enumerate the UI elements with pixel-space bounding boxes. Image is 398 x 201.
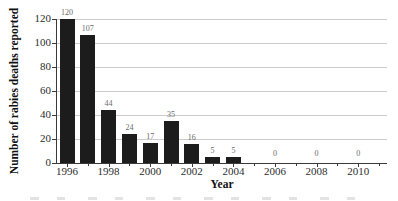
x-tick-mark [275, 164, 276, 167]
y-tick-label: 120 [18, 12, 51, 25]
bar [226, 157, 241, 163]
x-tick-mark [358, 164, 359, 167]
gridline [57, 67, 387, 68]
gridline [57, 91, 387, 92]
y-tick-mark [52, 139, 56, 140]
gridline [57, 19, 387, 20]
bar [205, 157, 220, 163]
y-tick-mark [52, 19, 56, 20]
y-tick-mark [52, 163, 56, 164]
bar-value-label: 0 [302, 149, 332, 158]
x-minor-tick-mark [171, 164, 172, 166]
x-tick-mark [192, 164, 193, 167]
y-tick-mark [52, 91, 56, 92]
y-tick-mark [52, 67, 56, 68]
bar-value-label: 44 [94, 99, 124, 108]
x-tick-mark [150, 164, 151, 167]
rabies-deaths-bar-chart: Number of rabies deaths reported 1201074… [0, 0, 398, 201]
bar-value-label: 107 [73, 24, 103, 33]
x-minor-tick-mark [129, 164, 130, 166]
bar-value-label: 0 [260, 149, 290, 158]
gridline [57, 43, 387, 44]
x-minor-tick-mark [337, 164, 338, 166]
bar [164, 121, 179, 163]
bar [101, 110, 116, 163]
cropped-caption-remnant [30, 197, 376, 200]
bar-value-label: 17 [135, 132, 165, 141]
bar-value-label: 0 [343, 149, 373, 158]
x-minor-tick-mark [296, 164, 297, 166]
x-minor-tick-mark [254, 164, 255, 166]
plot-area: 120107442417351655000 [56, 19, 387, 164]
y-tick-label: 60 [18, 84, 51, 97]
bar [60, 19, 75, 163]
x-tick-mark [67, 164, 68, 167]
x-tick-mark [109, 164, 110, 167]
bar-value-label: 35 [156, 110, 186, 119]
bar [143, 143, 158, 163]
y-tick-label: 40 [18, 108, 51, 121]
x-tick-mark [317, 164, 318, 167]
y-tick-label: 100 [18, 36, 51, 49]
x-axis-title: Year [57, 178, 387, 190]
y-tick-label: 20 [18, 132, 51, 145]
y-tick-mark [52, 43, 56, 44]
bar-value-label: 5 [218, 146, 248, 155]
x-minor-tick-mark [379, 164, 380, 166]
y-tick-label: 80 [18, 60, 51, 73]
x-minor-tick-mark [88, 164, 89, 166]
bar-value-label: 16 [177, 133, 207, 142]
x-tick-mark [233, 164, 234, 167]
bar-value-label: 120 [52, 8, 82, 17]
x-minor-tick-mark [213, 164, 214, 166]
y-tick-mark [52, 115, 56, 116]
